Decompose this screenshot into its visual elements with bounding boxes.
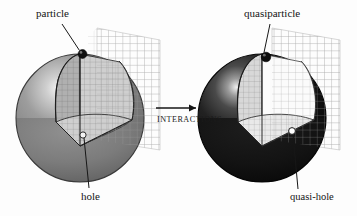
particle-marker [78,50,87,59]
quasiparticle-marker [261,52,271,62]
label-quasiparticle: quasiparticle [244,8,300,19]
physics-figure: particle hole quasiparticle quasi-hole I… [0,0,357,216]
label-quasi-hole: quasi-hole [290,192,334,203]
label-interactions: INTERACTIONS [157,116,222,124]
quasi-hole-marker [289,128,296,135]
hole-marker [80,132,86,138]
right-mesh-plane-front [272,28,340,150]
left-mesh-plane-front [97,28,160,150]
label-particle: particle [36,8,69,19]
label-hole: hole [81,191,100,202]
figure-canvas [0,0,357,216]
